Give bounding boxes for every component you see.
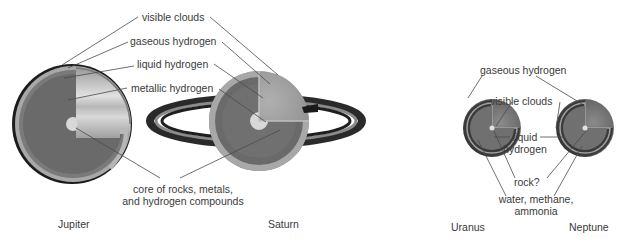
label-rock: rock? <box>514 176 540 188</box>
label-metallic-hydrogen: metallic hydrogen <box>131 82 213 94</box>
label-ice-visible-clouds: visible clouds <box>490 95 552 107</box>
label-gaseous-hydrogen: gaseous hydrogen <box>130 35 216 47</box>
planet-name-neptune: Neptune <box>569 221 609 233</box>
jupiter-cutaway <box>12 64 132 184</box>
label-ice-liquid-line1: liquid <box>502 131 548 143</box>
planet-name-uranus: Uranus <box>451 221 485 233</box>
label-core: core of rocks, metals, and hydrogen comp… <box>108 183 258 207</box>
label-ice-gaseous-hydrogen: gaseous hydrogen <box>480 64 566 76</box>
label-mantle-line2: ammonia <box>486 205 586 217</box>
label-mantle-line1: water, methane, <box>486 193 586 205</box>
label-ice-liquid-hydrogen: liquid hydrogen <box>502 131 548 155</box>
label-core-line1: core of rocks, metals, <box>108 183 258 195</box>
label-core-line2: and hydrogen compounds <box>108 195 258 207</box>
neptune-cutaway <box>556 99 614 157</box>
planet-name-saturn: Saturn <box>268 218 299 230</box>
planet-name-jupiter: Jupiter <box>58 218 90 230</box>
label-visible-clouds: visible clouds <box>142 11 204 23</box>
label-ice-liquid-line2: hydrogen <box>502 143 548 155</box>
label-water-methane-ammonia: water, methane, ammonia <box>486 193 586 217</box>
label-liquid-hydrogen: liquid hydrogen <box>137 58 208 70</box>
